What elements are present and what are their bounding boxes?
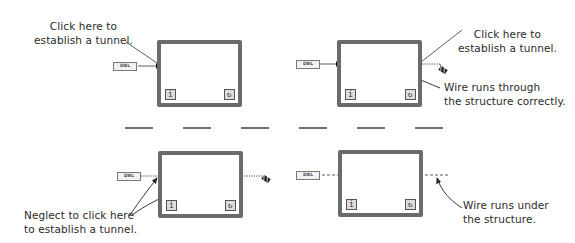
- annotation-line: Wire runs under: [463, 198, 549, 212]
- iteration-terminal-icon: i: [165, 89, 176, 100]
- dbl-terminal[interactable]: DBL: [296, 60, 320, 69]
- annotation-wire-through: Wire runs through the structure correctl…: [444, 80, 566, 108]
- annotation-line: Wire runs through: [444, 80, 566, 94]
- loop-condition-icon: ↻: [405, 199, 416, 210]
- annotation-line: establish a tunnel.: [34, 33, 133, 47]
- annotation-line: Click here to: [458, 27, 557, 41]
- broken-wire-icon: [261, 175, 270, 184]
- annotation-wire-under: Wire runs under the structure.: [463, 198, 549, 226]
- annotation-line: to establish a tunnel.: [24, 222, 137, 236]
- broken-wire-icon: [438, 66, 447, 75]
- loop-condition-icon: ↻: [405, 89, 416, 100]
- loop-condition-icon: ↻: [225, 200, 236, 211]
- annotation-line: Neglect to click here: [24, 208, 137, 222]
- dbl-terminal[interactable]: DBL: [296, 171, 320, 180]
- dbl-terminal[interactable]: DBL: [113, 62, 137, 71]
- annotation-line: Click here to: [34, 19, 133, 33]
- dbl-terminal[interactable]: DBL: [117, 172, 141, 181]
- annotation-neglect-tunnel: Neglect to click here to establish a tun…: [24, 208, 137, 236]
- iteration-terminal-icon: i: [346, 199, 357, 210]
- annotation-line: establish a tunnel.: [458, 41, 557, 55]
- annotation-click-tunnel: Click here to establish a tunnel.: [34, 19, 133, 47]
- annotation-line: the structure correctly.: [444, 94, 566, 108]
- iteration-terminal-icon: i: [345, 89, 356, 100]
- diagram-canvas: i ↻ DBL Click here to establish a tunnel…: [0, 0, 575, 243]
- annotation-line: the structure.: [463, 212, 549, 226]
- iteration-terminal-icon: i: [166, 200, 177, 211]
- loop-condition-icon: ↻: [224, 89, 235, 100]
- annotation-click-tunnel: Click here to establish a tunnel.: [458, 27, 557, 55]
